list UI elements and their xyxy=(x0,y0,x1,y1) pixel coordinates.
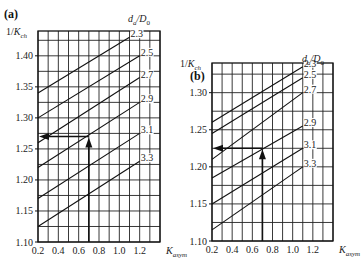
x-tick-label: 1.0 xyxy=(286,244,299,255)
curve-2-9 xyxy=(212,126,303,178)
curve-2-3 xyxy=(212,67,303,123)
y-tick-label: 1.10 xyxy=(190,236,208,247)
reading-arrow xyxy=(213,145,266,241)
curve-label: 3.1 xyxy=(141,124,154,135)
figure: 1.101.151.201.251.301.351.400.20.40.60.8… xyxy=(0,0,361,270)
legend-title: da/D0 xyxy=(128,13,151,27)
y-axis-label: 1/Kch xyxy=(6,26,28,40)
x-tick-label: 0.6 xyxy=(246,244,259,255)
curve-label: 3.1 xyxy=(304,139,317,150)
x-tick-label: 0.4 xyxy=(52,245,65,256)
curve-label: 3.3 xyxy=(304,158,317,169)
curve-label: 3.3 xyxy=(141,152,154,163)
curve-label: 2.9 xyxy=(304,117,317,128)
y-tick-label: 1.35 xyxy=(16,81,34,92)
curve-label: 2.7 xyxy=(304,84,317,95)
x-tick-label: 0.2 xyxy=(206,244,219,255)
chart-panel-b: 1.101.151.201.251.300.20.40.60.81.01.22.… xyxy=(180,53,360,258)
curve-2-5 xyxy=(212,78,303,134)
x-tick-label: 0.4 xyxy=(226,244,239,255)
y-tick-label: 1.15 xyxy=(190,198,208,209)
x-tick-label: 0.8 xyxy=(93,245,106,256)
curve-label: 2.3 xyxy=(131,28,144,39)
y-tick-label: 1.10 xyxy=(16,237,34,248)
curve-label: 2.7 xyxy=(141,69,154,80)
x-axis-label: Kasym xyxy=(338,244,360,258)
y-tick-label: 1.20 xyxy=(16,174,34,185)
x-tick-label: 0.2 xyxy=(32,245,45,256)
y-tick-label: 1.30 xyxy=(190,87,208,98)
panel-label: (a) xyxy=(4,7,18,21)
curve-2-7 xyxy=(212,93,303,160)
y-tick-label: 1.25 xyxy=(16,143,34,154)
curve-label: 2.5 xyxy=(141,47,154,58)
curve-label: 2.9 xyxy=(141,93,154,104)
y-tick-label: 1.30 xyxy=(16,112,34,123)
y-tick-label: 1.25 xyxy=(190,124,208,135)
x-tick-label: 0.6 xyxy=(72,245,85,256)
y-tick-label: 1.40 xyxy=(16,50,34,61)
curve-2-3 xyxy=(38,37,130,93)
chart-panel-a: 1.101.151.201.251.301.351.400.20.40.60.8… xyxy=(4,7,187,259)
curve-label: 2.5 xyxy=(304,69,317,80)
x-tick-label: 0.8 xyxy=(266,244,279,255)
x-tick-label: 1.0 xyxy=(113,245,126,256)
x-tick-label: 1.2 xyxy=(133,245,146,256)
x-axis-label: Kasym xyxy=(165,245,187,259)
y-tick-label: 1.15 xyxy=(16,205,34,216)
y-tick-label: 1.20 xyxy=(190,161,208,172)
x-tick-label: 1.2 xyxy=(307,244,320,255)
